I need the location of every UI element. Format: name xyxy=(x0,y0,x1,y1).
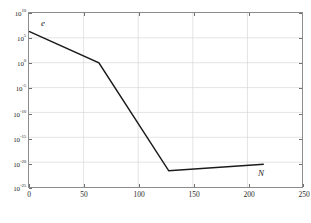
y-tickmark-right xyxy=(299,88,302,89)
x-tickmark xyxy=(84,184,85,187)
data-series-e xyxy=(29,13,302,187)
y-tickmark xyxy=(29,114,32,115)
x-tickmark xyxy=(139,184,140,187)
y-tickmark xyxy=(29,139,32,140)
x-tickmark-top xyxy=(84,13,85,16)
x-tick-label: 50 xyxy=(80,190,88,199)
y-tickmark-right xyxy=(299,164,302,165)
x-tick-label: 0 xyxy=(27,190,31,199)
y-tickmark xyxy=(29,13,32,14)
y-tick-label: 10-25 xyxy=(13,183,26,192)
y-tickmark xyxy=(29,38,32,39)
y-tickmark-right xyxy=(299,139,302,140)
y-tickmark-right xyxy=(299,114,302,115)
y-tick-label: 100 xyxy=(17,59,26,68)
y-tickmark xyxy=(29,164,32,165)
x-tick-label: 150 xyxy=(188,190,199,199)
x-tickmark-top xyxy=(249,13,250,16)
y-tick-label: 10-5 xyxy=(16,84,26,93)
x-tick-label: 250 xyxy=(298,190,309,199)
y-tick-label: 10-10 xyxy=(13,109,26,118)
y-tick-label: 105 xyxy=(17,33,26,42)
y-tick-label: 10-15 xyxy=(13,134,26,143)
y-axis-label: e xyxy=(41,18,45,28)
x-tick-label: 200 xyxy=(243,190,254,199)
plot-area: 1010 105 100 10-5 10-10 10-15 10-20 10-2… xyxy=(28,12,303,188)
figure-canvas: 1010 105 100 10-5 10-10 10-15 10-20 10-2… xyxy=(0,0,311,223)
x-tickmark-top xyxy=(139,13,140,16)
y-tickmark-right xyxy=(299,13,302,14)
y-tickmark-right xyxy=(299,38,302,39)
x-tickmark xyxy=(194,184,195,187)
y-tick-label: 1010 xyxy=(15,8,26,17)
x-tick-label: 100 xyxy=(133,190,144,199)
x-tickmark xyxy=(303,184,304,187)
y-tickmark xyxy=(29,88,32,89)
x-tickmark-top xyxy=(194,13,195,16)
y-tickmark xyxy=(29,63,32,64)
y-tick-label: 10-20 xyxy=(13,159,26,168)
y-tickmark-right xyxy=(299,63,302,64)
x-tickmark xyxy=(29,184,30,187)
x-tickmark xyxy=(249,184,250,187)
x-axis-label: N xyxy=(258,168,264,178)
y-tickmark xyxy=(29,188,32,189)
